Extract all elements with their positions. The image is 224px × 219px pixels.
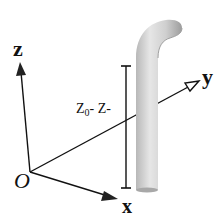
coordinate-diagram — [0, 0, 224, 219]
diagram-canvas: z y x O Z0- Z- — [0, 0, 224, 219]
pipe — [136, 20, 182, 193]
y-axis-label: y — [202, 66, 213, 88]
z-axis-label: z — [13, 38, 23, 60]
x-axis — [30, 172, 118, 201]
x-axis-label: x — [122, 196, 132, 216]
z-axis-arrowhead-icon — [16, 62, 26, 76]
dimension-label: Z0- Z- — [76, 102, 111, 118]
x-axis-arrowhead-icon — [101, 191, 118, 201]
z-axis — [16, 62, 30, 172]
dimension-label-rest: - Z- — [90, 101, 111, 116]
y-axis-arrowhead-icon — [185, 81, 199, 91]
dimension-bar — [121, 66, 131, 188]
origin-label: O — [14, 170, 30, 192]
dimension-label-main: Z — [76, 101, 85, 116]
y-axis — [30, 81, 199, 172]
